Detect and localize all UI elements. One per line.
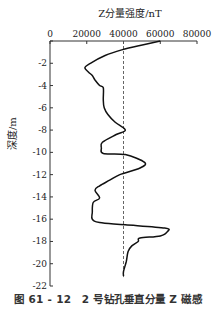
y-tick-label: -16 [33, 214, 48, 224]
y-tick-label: -22 [33, 281, 48, 291]
figure-caption: 图 61 - 12 2 号钻孔垂直分量 Z 磁感 [0, 291, 216, 306]
data-series [85, 41, 169, 276]
y-tick-label: -6 [38, 103, 47, 113]
y-tick-label: -12 [33, 170, 48, 180]
y-tick-label: -4 [38, 81, 47, 91]
z-component-curve [85, 41, 169, 276]
x-tick-label: 80000 [183, 29, 212, 39]
y-tick-label: -20 [33, 259, 48, 269]
x-tick-label: 0 [47, 29, 53, 39]
y-tick-label: -10 [33, 147, 48, 157]
depth-profile-chart: 020000400006000080000-2-4-6-8-10-12-14-1… [0, 0, 216, 300]
axes: 020000400006000080000-2-4-6-8-10-12-14-1… [33, 29, 212, 291]
y-tick-label: -8 [38, 125, 47, 135]
x-tick-label: 20000 [72, 29, 101, 39]
y-tick-label: -2 [38, 58, 47, 68]
y-tick-label: -18 [33, 236, 48, 246]
x-tick-label: 40000 [109, 29, 138, 39]
y-tick-label: -14 [33, 192, 48, 202]
x-tick-label: 60000 [146, 29, 175, 39]
